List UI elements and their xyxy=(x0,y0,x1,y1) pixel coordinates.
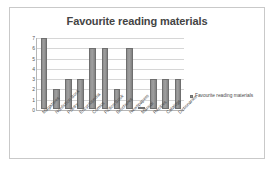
y-axis-tick-label: 5 xyxy=(32,56,35,61)
bar-slot xyxy=(75,38,87,109)
y-axis-tick-label: 7 xyxy=(32,36,35,41)
y-axis-tick-label: 3 xyxy=(32,77,35,82)
y-axis-tick-label: 0 xyxy=(32,108,35,113)
chart-legend: Favourite reading materials xyxy=(190,94,253,99)
chart-frame: Favourite reading materials 01234567 Mag… xyxy=(9,7,265,159)
bar-slot xyxy=(148,38,160,109)
chart-title: Favourite reading materials xyxy=(10,15,264,27)
bar[interactable] xyxy=(102,48,109,109)
bar-slot xyxy=(99,38,111,109)
y-axis-tick-label: 4 xyxy=(32,66,35,71)
legend-label: Favourite reading materials xyxy=(195,94,253,99)
y-axis-tick-label: 6 xyxy=(32,46,35,51)
legend-square-marker xyxy=(190,95,193,98)
bar[interactable] xyxy=(41,38,48,109)
y-axis-tick-label: 2 xyxy=(32,87,35,92)
y-axis-tick-label: 1 xyxy=(32,97,35,102)
bar-slot xyxy=(160,38,172,109)
bar-slot xyxy=(38,38,50,109)
x-axis-category-labels: MagazinesNonfiction BookPoetryEncycloped… xyxy=(36,112,184,160)
